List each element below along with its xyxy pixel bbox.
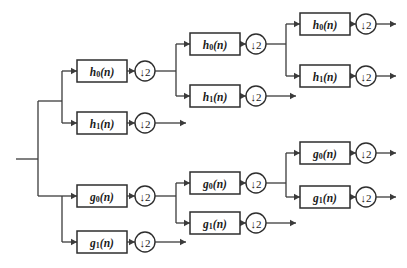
arrowhead-a-s2g0-ds [240, 180, 246, 186]
downsampler-label: ↓2 [140, 237, 151, 249]
arrowhead-a-s2h1-ds [240, 93, 246, 99]
arrowhead-a-s1g0-ds [129, 193, 135, 199]
downsampler-d-s2-g0[interactable]: ↓2 [246, 173, 266, 193]
downsampler-d-s2-h1[interactable]: ↓2 [246, 86, 266, 106]
filter-block-label: h1(n) [203, 91, 228, 104]
filter-block-label: h0(n) [203, 39, 228, 52]
arrowhead-a-s1h1-term [180, 120, 186, 126]
arrowhead-a-s3g1-in [294, 194, 300, 200]
filter-block-label: g1(n) [202, 218, 227, 231]
downsampler-label: ↓2 [140, 191, 151, 203]
downsampler-d-s3-h1[interactable]: ↓2 [356, 66, 376, 86]
arrowhead-a-s2h0-in [184, 41, 190, 47]
filter-block-label: h0(n) [313, 19, 338, 32]
downsampler-layer: ↓2↓2↓2↓2↓2↓2↓2↓2↓2↓2↓2↓2 [135, 14, 376, 252]
downsampler-d-s3-g1[interactable]: ↓2 [356, 187, 376, 207]
downsampler-d-s1-g0[interactable]: ↓2 [135, 186, 155, 206]
filter-block-label: g0(n) [202, 178, 227, 191]
filter-block-s3-h1[interactable]: h1(n) [300, 65, 350, 87]
filter-block-layer: h0(n)h1(n)g0(n)g1(n)h0(n)h1(n)g0(n)g1(n)… [77, 13, 350, 253]
filter-bank-diagram: h0(n)h1(n)g0(n)g1(n)h0(n)h1(n)g0(n)g1(n)… [0, 0, 407, 268]
arrowhead-a-s2h1-term [290, 93, 296, 99]
arrowhead-a-s2g0-in [184, 180, 190, 186]
filter-block-s1-g1[interactable]: g1(n) [77, 231, 127, 253]
filter-block-s3-g0[interactable]: g0(n) [300, 142, 350, 164]
downsampler-label: ↓2 [251, 178, 262, 190]
downsampler-d-s2-g1[interactable]: ↓2 [246, 213, 266, 233]
arrowhead-a-s2g1-in [184, 220, 190, 226]
arrowhead-a-s1g0-in [71, 193, 77, 199]
downsampler-d-s3-h0[interactable]: ↓2 [356, 14, 376, 34]
arrowhead-a-s3g0-ds [350, 150, 356, 156]
arrowhead-a-s1h0-in [71, 68, 77, 74]
downsampler-label: ↓2 [140, 66, 151, 78]
filter-block-s1-h1[interactable]: h1(n) [77, 112, 127, 134]
filter-block-label: h0(n) [90, 66, 115, 79]
downsampler-d-s3-g0[interactable]: ↓2 [356, 143, 376, 163]
downsampler-label: ↓2 [361, 192, 372, 204]
arrowhead-a-s2g1-term [290, 220, 296, 226]
downsampler-d-s2-h0[interactable]: ↓2 [246, 34, 266, 54]
filter-block-s3-h0[interactable]: h0(n) [300, 13, 350, 35]
arrowhead-a-s2h1-in [184, 93, 190, 99]
filter-block-label: g0(n) [89, 191, 114, 204]
filter-block-label: g0(n) [312, 148, 337, 161]
arrowhead-a-s2g1-ds [240, 220, 246, 226]
diagram-canvas: h0(n)h1(n)g0(n)g1(n)h0(n)h1(n)g0(n)g1(n)… [0, 0, 407, 268]
downsampler-label: ↓2 [251, 218, 262, 230]
arrowhead-a-s3h1-term [390, 73, 396, 79]
arrowhead-a-s1h1-ds [129, 120, 135, 126]
arrowhead-a-s2h0-ds [240, 41, 246, 47]
filter-block-s2-g0[interactable]: g0(n) [190, 172, 240, 194]
arrowhead-a-s1h1-in [71, 120, 77, 126]
arrowhead-a-s3h1-in [294, 73, 300, 79]
arrowhead-a-s3h1-ds [350, 73, 356, 79]
downsampler-label: ↓2 [361, 148, 372, 160]
downsampler-d-s1-g1[interactable]: ↓2 [135, 232, 155, 252]
filter-block-label: g1(n) [89, 237, 114, 250]
filter-block-s1-h0[interactable]: h0(n) [77, 60, 127, 82]
arrowhead-a-s3g1-ds [350, 194, 356, 200]
arrowhead-a-s3h0-term [390, 21, 396, 27]
downsampler-label: ↓2 [140, 118, 151, 130]
arrowhead-a-s1g1-ds [129, 239, 135, 245]
arrowhead-a-s3h0-in [294, 21, 300, 27]
downsampler-d-s1-h1[interactable]: ↓2 [135, 113, 155, 133]
arrowhead-a-s1h0-ds [129, 68, 135, 74]
arrowhead-a-s3h0-ds [350, 21, 356, 27]
arrowhead-a-s3g1-term [390, 194, 396, 200]
filter-block-s2-h0[interactable]: h0(n) [190, 33, 240, 55]
wire-layer [16, 24, 396, 242]
filter-block-s2-g1[interactable]: g1(n) [190, 212, 240, 234]
downsampler-label: ↓2 [361, 71, 372, 83]
filter-block-s3-g1[interactable]: g1(n) [300, 186, 350, 208]
filter-block-label: h1(n) [90, 118, 115, 131]
filter-block-label: h1(n) [313, 71, 338, 84]
filter-block-s1-g0[interactable]: g0(n) [77, 185, 127, 207]
filter-block-label: g1(n) [312, 192, 337, 205]
arrowhead-a-s3g0-term [390, 150, 396, 156]
downsampler-label: ↓2 [251, 91, 262, 103]
downsampler-d-s1-h0[interactable]: ↓2 [135, 61, 155, 81]
downsampler-label: ↓2 [251, 39, 262, 51]
arrowhead-a-s1g1-term [180, 239, 186, 245]
filter-block-s2-h1[interactable]: h1(n) [190, 85, 240, 107]
arrowhead-a-s3g0-in [294, 150, 300, 156]
downsampler-label: ↓2 [361, 19, 372, 31]
arrowhead-a-s1g1-in [71, 239, 77, 245]
